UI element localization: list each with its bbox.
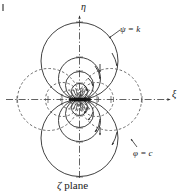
zeta-plane-plot [0,0,184,196]
annotation-leaders [109,30,137,147]
psi-leader-line [109,30,120,38]
annotation-phi-equals-c: φ = c [133,148,153,158]
axis-label-xi: ξ [172,88,176,99]
zeta-plane-figure: η ξ ψ = k φ = c ζ plane [0,0,184,196]
caption-zeta-symbol: ζ [57,179,61,191]
caption-plane-word: plane [64,179,88,191]
figure-caption: ζ plane [57,179,88,191]
annotation-psi-equals-k: ψ = k [120,24,140,34]
axis-label-eta: η [81,1,86,12]
phi-leader-line [131,139,137,147]
scan-artifact [2,4,4,11]
